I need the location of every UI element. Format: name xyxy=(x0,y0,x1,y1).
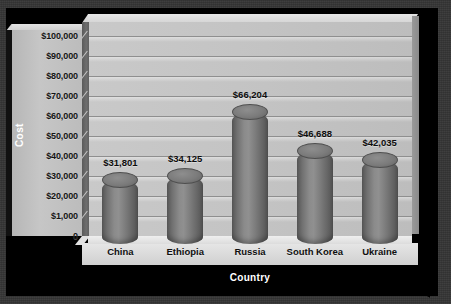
y-axis-tick-label: $20,000 xyxy=(46,191,78,201)
y-axis-tick-mark xyxy=(82,71,88,81)
x-axis-tick-labels: ChinaEthiopiaRussiaSouth KoreaUkraine xyxy=(88,246,412,262)
y-axis-tick-mark xyxy=(82,111,88,121)
bar-cylinder-top xyxy=(167,168,203,184)
bar-value-label: $66,204 xyxy=(233,89,267,100)
y-axis-tick-mark xyxy=(82,31,88,41)
bar-cylinder-top xyxy=(232,104,268,120)
bar-cylinder-top xyxy=(102,172,138,188)
bar[interactable]: $66,204 xyxy=(232,104,268,244)
bar-value-label: $34,125 xyxy=(168,153,202,164)
bar-cylinder-body xyxy=(167,176,203,244)
bar-value-label: $31,801 xyxy=(103,157,137,168)
y-axis-tick-mark xyxy=(82,131,88,141)
y-axis-tick-label: $70,000 xyxy=(46,91,78,101)
bar[interactable]: $31,801 xyxy=(102,172,138,244)
y-axis-tick-label: $60,000 xyxy=(46,111,78,121)
x-axis-tick-label: Ukraine xyxy=(362,246,397,257)
bar[interactable]: $42,035 xyxy=(362,152,398,244)
x-axis-title: Country xyxy=(88,272,412,283)
chart-root: $100,000$90,000$80,000$70,000$60,000$50,… xyxy=(0,0,451,304)
y-axis-side-wall xyxy=(82,22,89,236)
bar[interactable]: $34,125 xyxy=(167,168,203,244)
y-axis-tick-mark xyxy=(82,171,88,181)
bar-cylinder-top xyxy=(362,152,398,168)
gridline xyxy=(88,36,412,37)
y-axis-tick-mark xyxy=(82,191,88,201)
y-axis-tick-label: $80,000 xyxy=(46,71,78,81)
bar-value-label: $46,688 xyxy=(298,128,332,139)
x-axis-tick-label: China xyxy=(107,246,133,257)
bar-cylinder-body xyxy=(362,160,398,244)
bar-value-label: $42,035 xyxy=(362,137,396,148)
x-axis-tick-label: Russia xyxy=(234,246,265,257)
bar-cylinder-body xyxy=(102,180,138,244)
back-wall-right-edge xyxy=(412,16,419,234)
y-axis-title: Cost xyxy=(10,90,28,180)
gridline xyxy=(88,76,412,77)
y-axis-tick-mark xyxy=(82,151,88,161)
y-axis-tick-label: $40,000 xyxy=(46,151,78,161)
y-axis-tick-label: 0 xyxy=(73,231,78,241)
y-axis-tick-label: $1,000 xyxy=(51,211,78,221)
bar-cylinder-body xyxy=(232,112,268,244)
y-axis-tick-mark xyxy=(82,51,88,61)
y-axis-tick-mark xyxy=(82,91,88,101)
y-axis-tick-label: $30,000 xyxy=(46,171,78,181)
x-axis-tick-label: Ethiopia xyxy=(166,246,203,257)
bar-cylinder-body xyxy=(297,151,333,244)
x-axis-tick-label: South Korea xyxy=(287,246,343,257)
y-axis-tick-label: $100,000 xyxy=(41,31,78,41)
y-axis-tick-mark xyxy=(82,211,88,221)
bar[interactable]: $46,688 xyxy=(297,143,333,244)
y-axis-tick-label: $50,000 xyxy=(46,131,78,141)
gridline xyxy=(88,56,412,57)
y-axis-tick-label: $90,000 xyxy=(46,51,78,61)
bar-cylinder-top xyxy=(297,143,333,159)
